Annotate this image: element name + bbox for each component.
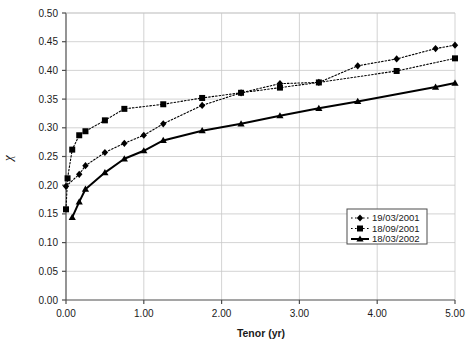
y-axis-tick-label: 0.00 <box>39 295 59 306</box>
x-axis-tick-label: 5.00 <box>445 308 465 319</box>
y-axis-tick-label: 0.05 <box>39 266 59 277</box>
y-axis-tick-label: 0.10 <box>39 237 59 248</box>
legend-marker-sample <box>357 226 363 232</box>
series-marker <box>121 106 127 112</box>
x-axis-tick-label: 4.00 <box>367 308 387 319</box>
y-axis-tick-label: 0.35 <box>39 94 59 105</box>
series-marker <box>63 206 69 212</box>
y-axis-tick-label: 0.15 <box>39 208 59 219</box>
x-axis-tick-label: 1.00 <box>134 308 154 319</box>
y-axis-tick-label: 0.40 <box>39 65 59 76</box>
series-marker <box>394 68 400 74</box>
series-marker <box>452 55 458 61</box>
y-axis-tick-label: 0.45 <box>39 36 59 47</box>
series-marker <box>316 79 322 85</box>
x-axis-tick-label: 3.00 <box>290 308 310 319</box>
y-axis-tick-label: 0.50 <box>39 8 59 19</box>
series-marker <box>238 90 244 96</box>
y-axis-tick-label: 0.30 <box>39 122 59 133</box>
chart-canvas: 0.000.050.100.150.200.250.300.350.400.45… <box>0 0 471 344</box>
x-axis-tick-label: 0.00 <box>56 308 76 319</box>
series-marker <box>65 175 71 181</box>
legend-label: 18/03/2002 <box>372 233 420 244</box>
legend-label: 18/09/2001 <box>372 223 420 234</box>
y-axis-tick-label: 0.25 <box>39 151 59 162</box>
series-marker <box>69 147 75 153</box>
series-marker <box>82 128 88 134</box>
series-marker <box>160 101 166 107</box>
chart-legend: 19/03/200118/09/200118/03/2002 <box>347 209 427 244</box>
series-marker <box>199 95 205 101</box>
legend-label: 19/03/2001 <box>372 212 420 223</box>
x-axis-tick-label: 2.00 <box>212 308 232 319</box>
series-marker <box>76 132 82 138</box>
y-axis-tick-label: 0.20 <box>39 180 59 191</box>
chart-figure: 0.000.050.100.150.200.250.300.350.400.45… <box>0 0 471 344</box>
series-marker <box>102 117 108 123</box>
x-axis-title: Tenor (yr) <box>237 327 285 339</box>
plot-background <box>0 0 471 344</box>
series-marker <box>277 85 283 91</box>
y-axis-title: χ <box>0 155 15 163</box>
